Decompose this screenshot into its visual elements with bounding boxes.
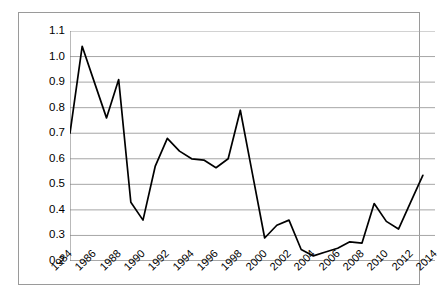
y-tick-label: 0.8 xyxy=(37,102,65,114)
y-tick-label: 0.9 xyxy=(37,76,65,88)
x-axis-tick-labels: 1984198619881990199219941996199820002002… xyxy=(70,261,435,296)
y-axis-tick-labels: 0.20.30.40.50.60.70.80.91.01.1 xyxy=(35,31,65,261)
chart-container: 0.20.30.40.50.60.70.80.91.01.1 198419861… xyxy=(0,0,440,296)
y-tick-label: 0.5 xyxy=(37,178,65,190)
y-tick-label: 0.7 xyxy=(37,127,65,139)
y-tick-label: 0.6 xyxy=(37,153,65,165)
data-series-line xyxy=(70,46,423,256)
y-tick-label: 1.0 xyxy=(37,51,65,63)
line-chart-svg xyxy=(70,31,435,261)
y-tick-label: 1.1 xyxy=(37,25,65,37)
y-tick-label: 0.3 xyxy=(37,229,65,241)
plot-area xyxy=(70,31,435,261)
y-tick-label: 0.4 xyxy=(37,204,65,216)
chart-frame: 0.20.30.40.50.60.70.80.91.01.1 198419861… xyxy=(18,12,420,285)
